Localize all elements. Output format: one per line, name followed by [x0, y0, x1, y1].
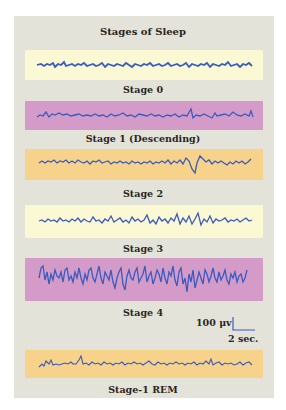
eeg-strip-stage-2: [25, 149, 263, 180]
figure-title: Stages of Sleep: [0, 26, 286, 37]
stage-label-0: Stage 0: [0, 84, 286, 95]
eeg-strip-stage-3: [25, 205, 263, 238]
scale-time-label: 2 sec.: [228, 333, 258, 344]
eeg-strip-stage-4: [25, 258, 263, 301]
eeg-trace-stage-4: [25, 258, 263, 301]
stage-label-2: Stage 2: [0, 188, 286, 199]
eeg-strip-stage-rem: [25, 350, 263, 378]
stage-label-1: Stage 1 (Descending): [0, 133, 286, 144]
eeg-trace-stage-rem: [25, 350, 263, 378]
stage-label-3: Stage 3: [0, 243, 286, 254]
eeg-strip-stage-1: [25, 101, 263, 130]
stage-label-rem: Stage-1 REM: [0, 384, 286, 395]
eeg-trace-stage-0: [25, 50, 263, 80]
eeg-trace-stage-3: [25, 205, 263, 238]
eeg-trace-stage-1: [25, 101, 263, 130]
scale-voltage-label: 100 μv: [196, 317, 232, 328]
eeg-strip-stage-0: [25, 50, 263, 80]
eeg-trace-stage-2: [25, 149, 263, 180]
scale-bar-icon: [232, 316, 256, 332]
